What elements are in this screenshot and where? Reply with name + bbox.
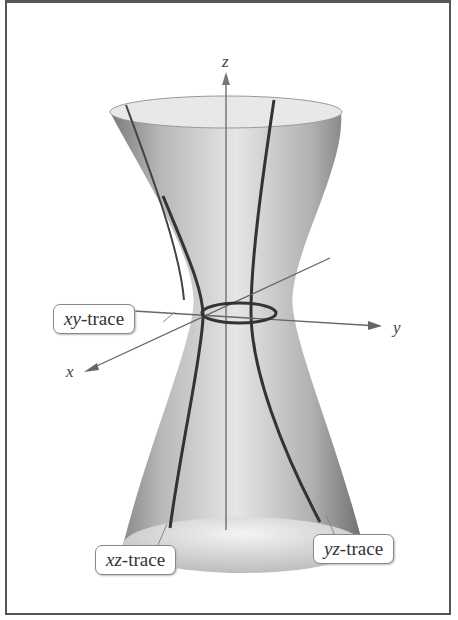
xz-trace-callout: xz-trace [95, 545, 176, 575]
xy-trace-callout: xy-trace [53, 304, 135, 334]
y-axis-label: y [393, 318, 401, 338]
x-arrowhead [84, 363, 99, 372]
z-axis-label: z [222, 52, 229, 72]
y-arrowhead [368, 321, 382, 330]
hyperboloid-surface [110, 112, 363, 545]
x-axis-label: x [66, 362, 74, 382]
yz-trace-callout: yz-trace [313, 534, 394, 564]
z-arrowhead [222, 72, 230, 85]
